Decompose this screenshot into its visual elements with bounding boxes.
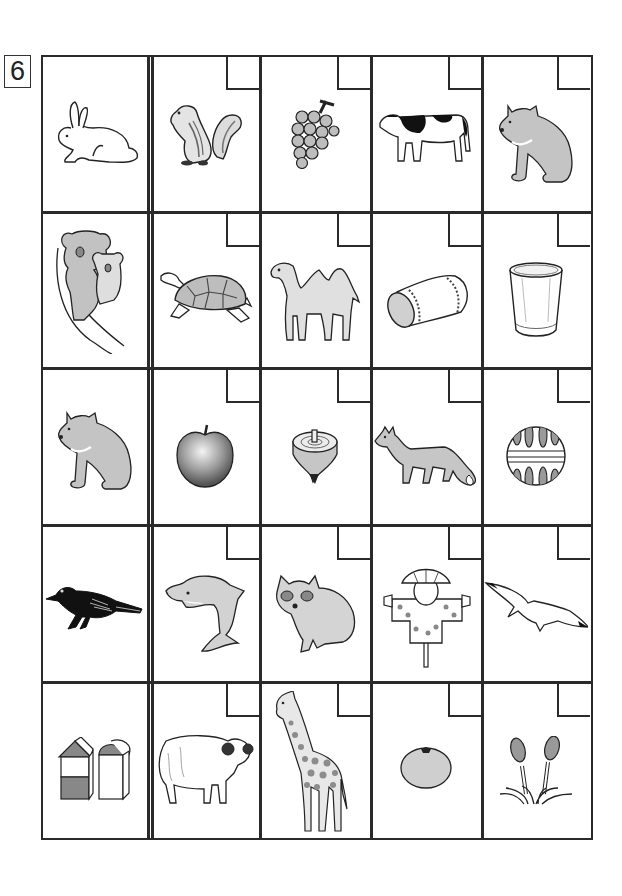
cell-rabbit: rabbit xyxy=(43,57,147,211)
giraffe-icon xyxy=(271,691,351,837)
glass-icon xyxy=(508,260,564,340)
cell-seagull: seagull xyxy=(481,527,590,681)
cow-icon xyxy=(376,103,476,165)
cell-pillow: pillow xyxy=(370,214,481,367)
cell-raccoon-dog: raccoon dog xyxy=(259,527,370,681)
chipmunk-icon xyxy=(165,101,245,167)
raccoon-dog-icon xyxy=(273,574,357,654)
cell-cow: cow xyxy=(370,57,481,211)
bear-icon xyxy=(496,102,576,186)
spinning-top-icon xyxy=(289,428,341,484)
cell-grapes: grapes xyxy=(259,57,370,211)
cell-horsetail-shoots: horsetail shoots xyxy=(481,684,590,839)
cell-koala: koala xyxy=(43,214,147,367)
cell-crow: crow xyxy=(43,527,147,681)
crow-icon xyxy=(46,583,144,633)
cell-spinning-top: spinning top xyxy=(259,370,370,524)
cell-ball: ball xyxy=(481,370,590,524)
grapes-icon xyxy=(290,99,340,169)
koala-icon xyxy=(50,228,140,354)
cell-sheep: sheep xyxy=(151,684,259,839)
mandarin-orange-icon xyxy=(399,745,453,789)
cell-bear: bear xyxy=(481,57,590,211)
cell-mandarin-orange: mandarin orange xyxy=(370,684,481,839)
cell-glass: glass xyxy=(481,214,590,367)
scarecrow-icon xyxy=(380,565,472,669)
tortoise-icon xyxy=(157,270,253,326)
question-number: 6 xyxy=(4,55,31,88)
divider xyxy=(147,57,150,838)
fox-icon xyxy=(373,423,479,489)
cell-apple: apple xyxy=(151,370,259,524)
camel-icon xyxy=(267,256,363,346)
picture-grid: rabbit chipmunk grapes xyxy=(41,55,593,840)
cell-camel: camel xyxy=(259,214,370,367)
cell-scarecrow: scarecrow xyxy=(370,527,481,681)
cell-dolphin: dolphin xyxy=(151,527,259,681)
horsetail-shoots-icon xyxy=(498,736,574,806)
cell-fox: fox xyxy=(370,370,481,524)
apple-icon xyxy=(175,423,235,489)
building-blocks-icon xyxy=(57,737,133,801)
dolphin-icon xyxy=(164,573,246,655)
sheep-icon xyxy=(156,733,254,807)
cell-giraffe: giraffe xyxy=(259,684,370,839)
cell-tortoise: tortoise xyxy=(151,214,259,367)
cell-building-blocks: building blocks xyxy=(43,684,147,839)
ball-icon xyxy=(505,425,567,487)
seagull-icon xyxy=(484,579,588,633)
bear-icon xyxy=(53,409,137,493)
cell-bear-2: bear xyxy=(43,370,147,524)
pillow-icon xyxy=(383,270,469,330)
rabbit-icon xyxy=(49,98,141,170)
cell-chipmunk: chipmunk xyxy=(151,57,259,211)
